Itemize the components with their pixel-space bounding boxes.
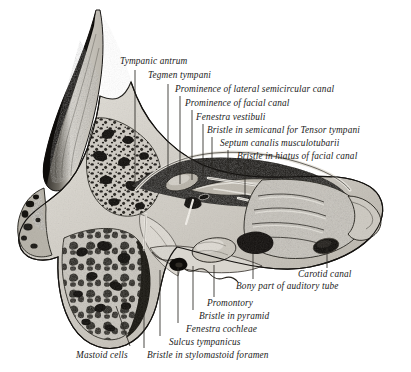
label-carotid-canal: Carotid canal [298,269,352,280]
label-bony-part-auditory-tube: Bony part of auditory tube [236,281,339,292]
label-fenestra-cochleae: Fenestra cochleae [186,324,257,335]
label-promontory: Promontory [207,298,253,309]
label-bristle-in-stylomastoid-foramen: Bristle in stylomastoid foramen [147,350,269,361]
label-prominence-facial-canal: Prominence of facial canal [185,98,290,109]
label-prominence-lateral-semicircular-canal: Prominence of lateral semicircular canal [175,84,334,95]
label-bristle-semicanal-tensor-tympani: Bristle in semicanal for Tensor tympani [207,125,360,136]
label-bristle-hiatus-facial-canal: Bristle in hiatus of facial canal [237,151,357,162]
label-mastoid-cells: Mastoid cells [76,350,128,361]
label-tympanic-antrum: Tympanic antrum [120,56,187,67]
anatomy-plate: Tympanic antrumTegmen tympaniProminence … [0,0,411,372]
label-fenestra-vestibuli: Fenestra vestibuli [196,112,266,123]
label-tegmen-tympani: Tegmen tympani [148,70,211,81]
label-sulcus-tympanicus: Sulcus tympanicus [169,337,241,348]
label-septum-canalis-musculotubarii: Septum canalis musculotubarii [220,138,340,149]
label-bristle-in-pyramid: Bristle in pyramid [199,311,269,322]
